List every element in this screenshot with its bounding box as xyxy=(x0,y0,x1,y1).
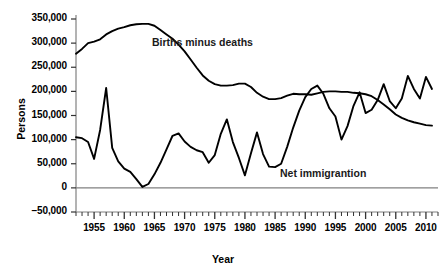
chart-container: –50,000050,000100,000150,000200,000250,0… xyxy=(0,0,446,273)
y-tick-label: 200,000 xyxy=(0,84,67,95)
y-tick-label: 150,000 xyxy=(0,109,67,120)
series-label-births-minus-deaths: Births minus deaths xyxy=(152,36,253,48)
x-tick-label: 2010 xyxy=(406,222,446,233)
x-axis-title: Year xyxy=(0,253,446,265)
series-label-net-immigration: Net immigrantion xyxy=(280,167,366,179)
y-tick-label: 0 xyxy=(0,181,67,192)
y-tick-label: 100,000 xyxy=(0,133,67,144)
y-tick-label: 300,000 xyxy=(0,36,67,47)
y-tick-label: 250,000 xyxy=(0,60,67,71)
y-axis-title: Persons xyxy=(15,79,27,159)
axes-group xyxy=(76,15,438,212)
axis-ticks-group xyxy=(71,19,438,219)
y-tick-label: 350,000 xyxy=(0,12,67,23)
y-tick-label: –50,000 xyxy=(0,205,67,216)
data-series-group xyxy=(76,24,432,187)
y-tick-label: 50,000 xyxy=(0,157,67,168)
